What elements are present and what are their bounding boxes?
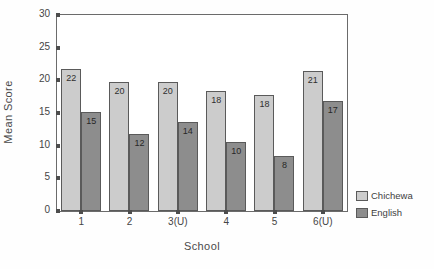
chart-legend: ChichewaEnglish (356, 190, 413, 224)
x-tick-label: 2 (127, 216, 133, 227)
x-tick-label: 1 (78, 216, 84, 227)
x-tick-mark (128, 210, 132, 214)
bar-group: 188 (250, 15, 298, 211)
bar: 21 (303, 71, 323, 211)
x-tick-mark (224, 210, 228, 214)
bar-value-label: 12 (130, 138, 148, 148)
bar-value-label: 22 (62, 73, 80, 83)
x-tick-mark (176, 210, 180, 214)
plot-area: 051015202530 22152012201418101882117 (56, 14, 348, 212)
bar-series-container: 22152012201418101882117 (57, 15, 347, 211)
bar: 18 (206, 91, 226, 211)
x-axis-title-text: School (184, 240, 220, 252)
x-tick-mark (273, 210, 277, 214)
legend-label: Chichewa (371, 190, 413, 201)
bar: 10 (226, 142, 246, 211)
y-tick-label: 5 (44, 171, 50, 182)
y-axis-title: Mean Score (2, 0, 14, 52)
bar-value-label: 17 (324, 105, 342, 115)
bar-group: 2014 (154, 15, 202, 211)
chart-figure: Mean Score 051015202530 2215201220141810… (0, 0, 434, 269)
bar-value-label: 20 (110, 86, 128, 96)
bar: 8 (274, 156, 294, 211)
x-tick-label: 3(U) (168, 216, 187, 227)
bar: 12 (129, 134, 149, 211)
bar-value-label: 10 (227, 146, 245, 156)
x-tick-label: 5 (272, 216, 278, 227)
y-axis-title-text: Mean Score (2, 52, 14, 172)
legend-item: Chichewa (356, 190, 413, 201)
bar-group: 1810 (202, 15, 250, 211)
bar-group: 2215 (57, 15, 105, 211)
x-tick-mark (79, 210, 83, 214)
x-axis-title: School (0, 240, 404, 252)
bar-value-label: 18 (207, 95, 225, 105)
bar: 15 (81, 112, 101, 211)
bar: 22 (61, 69, 81, 211)
y-tick-label: 0 (44, 204, 50, 215)
y-tick-label: 15 (39, 106, 50, 117)
bar-value-label: 20 (159, 86, 177, 96)
bar-group: 2117 (299, 15, 347, 211)
legend-swatch (356, 208, 368, 218)
y-tick-label: 20 (39, 73, 50, 84)
bar: 20 (158, 82, 178, 211)
bar: 17 (323, 101, 343, 211)
bar: 14 (178, 122, 198, 211)
bar: 20 (109, 82, 129, 211)
y-tick-label: 30 (39, 8, 50, 19)
bar: 18 (254, 95, 274, 211)
x-tick-mark (321, 210, 325, 214)
bar-value-label: 15 (82, 116, 100, 126)
y-tick-label: 10 (39, 139, 50, 150)
x-tick-label: 4 (223, 216, 229, 227)
legend-label: English (371, 207, 402, 218)
y-tick-label: 25 (39, 41, 50, 52)
bar-value-label: 21 (304, 75, 322, 85)
x-tick-label: 6(U) (313, 216, 332, 227)
bar-value-label: 14 (179, 126, 197, 136)
bar-value-label: 18 (255, 99, 273, 109)
bar-value-label: 8 (275, 160, 293, 170)
bar-group: 2012 (105, 15, 153, 211)
legend-item: English (356, 207, 413, 218)
legend-swatch (356, 191, 368, 201)
